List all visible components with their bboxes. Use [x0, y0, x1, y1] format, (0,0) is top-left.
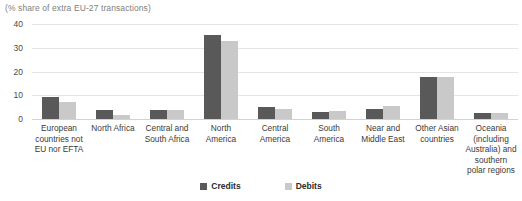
- bar-group: [32, 24, 86, 119]
- bar-group: [302, 24, 356, 119]
- legend-label: Debits: [296, 182, 322, 191]
- bar-credits[interactable]: [204, 35, 221, 119]
- bar-groups: [32, 24, 518, 119]
- bar-debits[interactable]: [167, 110, 184, 120]
- bar-chart: (% share of extra EU-27 transactions) 40…: [0, 0, 522, 201]
- legend-label: Credits: [211, 182, 240, 191]
- chart-legend: CreditsDebits: [0, 182, 522, 191]
- bar-credits[interactable]: [474, 113, 491, 119]
- chart-subtitle: (% share of extra EU-27 transactions): [5, 3, 151, 13]
- bar-credits[interactable]: [258, 107, 275, 119]
- bar-debits[interactable]: [383, 106, 400, 119]
- x-axis-label: Central America: [248, 123, 302, 144]
- bar-debits[interactable]: [221, 41, 238, 119]
- y-axis-tick-40: 40: [0, 20, 23, 29]
- bar-group: [410, 24, 464, 119]
- bar-credits[interactable]: [312, 112, 329, 119]
- y-axis-tick-30: 30: [0, 44, 23, 53]
- bar-debits[interactable]: [491, 113, 508, 119]
- y-axis-tick-0: 0: [0, 115, 23, 124]
- bar-credits[interactable]: [150, 110, 167, 119]
- bar-debits[interactable]: [275, 109, 292, 119]
- x-axis-label: North Africa: [86, 123, 140, 134]
- bar-credits[interactable]: [42, 97, 59, 119]
- legend-swatch-icon: [285, 183, 292, 190]
- bar-credits[interactable]: [366, 109, 383, 119]
- bar-group: [194, 24, 248, 119]
- x-axis-labels: European countries not EU nor EFTANorth …: [32, 123, 518, 176]
- bar-group: [140, 24, 194, 119]
- legend-swatch-icon: [200, 183, 207, 190]
- legend-item-credits[interactable]: Credits: [200, 182, 240, 191]
- bar-group: [464, 24, 518, 119]
- bar-debits[interactable]: [329, 111, 346, 119]
- x-axis-label: Near and Middle East: [356, 123, 410, 144]
- plot-area: 403020100: [32, 24, 518, 119]
- legend-item-debits[interactable]: Debits: [285, 182, 322, 191]
- x-axis-label: Oceania (including Australia) and southe…: [464, 123, 518, 176]
- x-axis-label: Other Asian countries: [410, 123, 464, 144]
- x-axis-label: North America: [194, 123, 248, 144]
- bar-debits[interactable]: [59, 102, 76, 119]
- y-axis-tick-20: 20: [0, 68, 23, 77]
- x-axis-label: South America: [302, 123, 356, 144]
- x-axis-label: European countries not EU nor EFTA: [32, 123, 86, 155]
- bar-group: [248, 24, 302, 119]
- bar-group: [356, 24, 410, 119]
- bar-debits[interactable]: [437, 77, 454, 119]
- bar-credits[interactable]: [420, 77, 437, 119]
- bar-group: [86, 24, 140, 119]
- y-axis-tick-10: 10: [0, 91, 23, 100]
- x-axis-label: Central and South Africa: [140, 123, 194, 144]
- gridline-0: [32, 119, 518, 120]
- bar-debits[interactable]: [113, 115, 130, 119]
- bar-credits[interactable]: [96, 110, 113, 119]
